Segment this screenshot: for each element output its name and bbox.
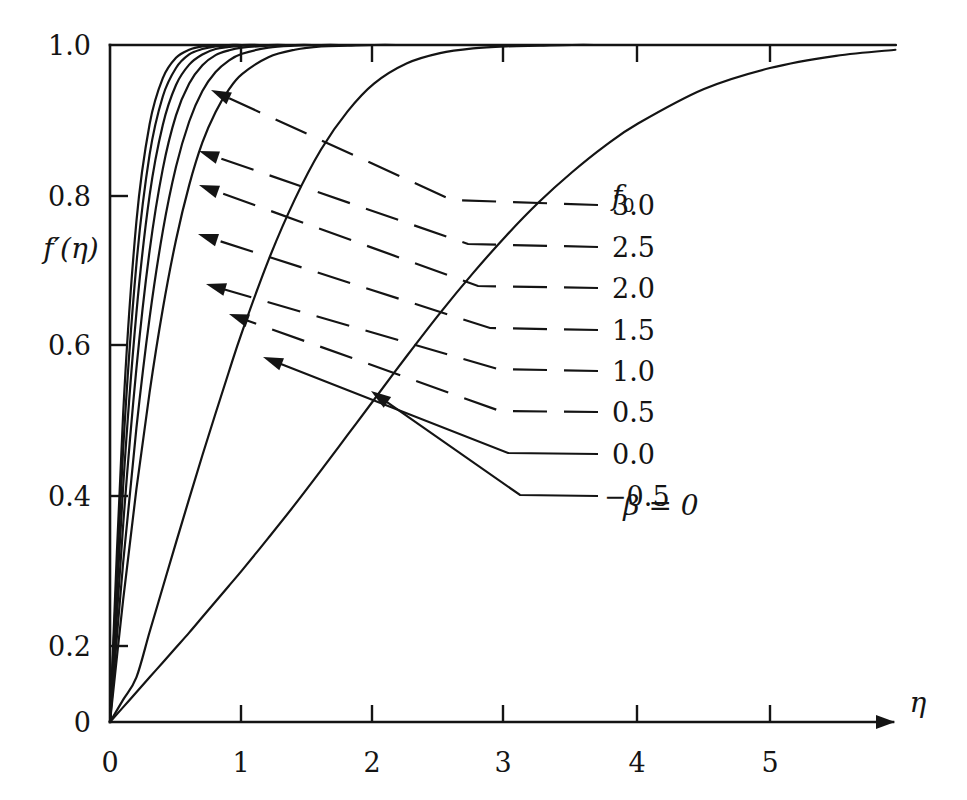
leader-arrow-icon-1.5 bbox=[198, 234, 219, 246]
leader-line-0.5 bbox=[245, 320, 598, 412]
y-tick-label-0.4: 0.4 bbox=[48, 481, 91, 512]
x-tick-label-4: 4 bbox=[628, 747, 645, 778]
leader-line-0.0 bbox=[279, 363, 598, 454]
boundary-layer-chart: 1.0 0.8 0.6 0.4 0.2 0 0 1 2 3 4 5 f′(η) … bbox=[0, 0, 967, 800]
leader-arrow-icon-0.5 bbox=[229, 314, 250, 327]
y-tick-label-0: 0 bbox=[74, 707, 91, 738]
y-tick-label-0.8: 0.8 bbox=[48, 181, 91, 212]
leader-arrow-icon-0.0 bbox=[263, 357, 284, 370]
x-tick-label-5: 5 bbox=[761, 747, 778, 778]
y-tick-label-0.2: 0.2 bbox=[48, 631, 91, 662]
x-tick-labels: 0 1 2 3 4 5 bbox=[101, 747, 778, 778]
leader-line-3.0 bbox=[227, 97, 598, 205]
x-tick-label-0: 0 bbox=[101, 747, 118, 778]
top-axis-ticks bbox=[241, 45, 770, 62]
leader-line-2.0 bbox=[215, 191, 598, 288]
y-tick-label-0.6: 0.6 bbox=[48, 330, 91, 361]
curve-f0-2.5 bbox=[110, 45, 895, 722]
curve-f0-3.0 bbox=[110, 45, 895, 722]
legend-label-2.0: 2.0 bbox=[612, 273, 655, 304]
x-axis-arrow-icon bbox=[876, 715, 895, 729]
leader-arrow-icon-1.0 bbox=[206, 283, 227, 296]
y-tick-labels: 1.0 0.8 0.6 0.4 0.2 0 bbox=[48, 30, 91, 738]
legend-label-2.5: 2.5 bbox=[612, 232, 655, 263]
legend-label-0.5: 0.5 bbox=[612, 397, 655, 428]
leader-lines-group bbox=[198, 90, 598, 496]
leader-line-minus0.5 bbox=[387, 402, 598, 496]
legend-label-1.5: 1.5 bbox=[612, 315, 655, 346]
curve-f0-0.0 bbox=[110, 45, 895, 722]
y-tick-label-1.0: 1.0 bbox=[48, 30, 91, 61]
legend-labels-group: 3.02.52.01.51.00.50.0−0.5 bbox=[604, 190, 670, 512]
figure-page: 1.0 0.8 0.6 0.4 0.2 0 0 1 2 3 4 5 f′(η) … bbox=[0, 0, 967, 800]
curve-f0-minus0.5 bbox=[110, 50, 895, 722]
x-axis-ticks bbox=[241, 705, 770, 722]
legend-label-0.0: 0.0 bbox=[612, 439, 655, 470]
leader-arrow-icon-2.0 bbox=[199, 185, 220, 198]
legend-label-1.0: 1.0 bbox=[612, 356, 655, 387]
x-tick-label-2: 2 bbox=[363, 747, 380, 778]
curve-series-group bbox=[110, 45, 895, 722]
y-axis-title: f′(η) bbox=[41, 232, 98, 265]
leader-arrow-icon-2.5 bbox=[199, 151, 220, 164]
curve-f0-1.5 bbox=[110, 45, 895, 722]
curve-f0-0.5 bbox=[110, 45, 895, 722]
legend-label-3.0: 3.0 bbox=[612, 190, 655, 221]
legend: f0 3.02.52.01.51.00.50.0−0.5 bbox=[604, 179, 670, 512]
x-tick-label-1: 1 bbox=[232, 747, 249, 778]
curve-f0-2.0 bbox=[110, 45, 895, 722]
x-axis-title: η bbox=[910, 686, 927, 719]
x-tick-label-3: 3 bbox=[494, 747, 511, 778]
curve-f0-1.0 bbox=[110, 45, 895, 722]
axis-lines bbox=[110, 45, 895, 722]
legend-label-minus0.5: −0.5 bbox=[604, 481, 670, 512]
